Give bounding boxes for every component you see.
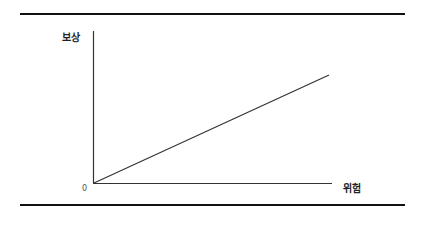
risk-reward-line: [94, 75, 329, 183]
origin-label: 0: [82, 184, 87, 193]
x-axis-label: 위험: [343, 180, 361, 195]
y-axis-label: 보상: [62, 29, 80, 44]
